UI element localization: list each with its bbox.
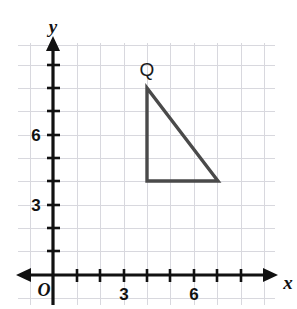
x-axis-arrow-left xyxy=(16,268,31,282)
y-tick-label-6: 6 xyxy=(31,126,40,145)
vertex-label-q: Q xyxy=(140,59,155,80)
y-axis-label: y xyxy=(47,16,58,37)
coordinate-plane-canvas: 3 6 6 3 y x O Q xyxy=(0,0,297,309)
origin-label: O xyxy=(38,280,51,300)
x-axis-label: x xyxy=(282,272,293,293)
y-tick-label-3: 3 xyxy=(31,196,40,215)
x-axis-arrow-right xyxy=(263,268,278,282)
x-tick-label-6: 6 xyxy=(189,285,198,304)
x-tick-label-3: 3 xyxy=(119,285,128,304)
coordinate-plane-figure: 3 6 6 3 y x O Q xyxy=(0,0,297,309)
y-axis-arrow-up xyxy=(46,36,60,51)
